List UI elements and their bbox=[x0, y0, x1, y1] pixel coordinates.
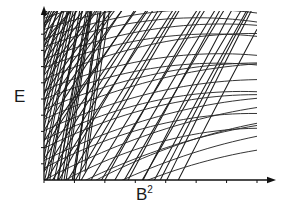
landau-fan-figure: E B2 bbox=[0, 0, 286, 216]
x-axis-arrow-icon bbox=[267, 177, 276, 183]
energy-branch bbox=[60, 150, 257, 216]
energy-branch bbox=[44, 3, 257, 30]
y-axis-arrow-icon bbox=[41, 6, 47, 15]
x-axis-label: B2 bbox=[136, 186, 153, 203]
energy-branch bbox=[44, 136, 257, 216]
energy-branch bbox=[44, 0, 77, 4]
energy-branch bbox=[44, 0, 60, 12]
plot-canvas bbox=[0, 0, 286, 216]
energy-branch bbox=[44, 0, 52, 6]
energy-branch bbox=[44, 0, 257, 18]
energy-branch bbox=[44, 0, 69, 66]
x-axis bbox=[44, 177, 276, 183]
energy-branch bbox=[44, 0, 257, 8]
energy-branch bbox=[101, 0, 248, 216]
energy-branch bbox=[126, 0, 249, 214]
y-axis-label: E bbox=[14, 88, 25, 105]
x-axis-label-exponent: 2 bbox=[147, 184, 153, 195]
energy-branch bbox=[44, 0, 77, 8]
x-axis-label-base: B bbox=[136, 185, 147, 204]
